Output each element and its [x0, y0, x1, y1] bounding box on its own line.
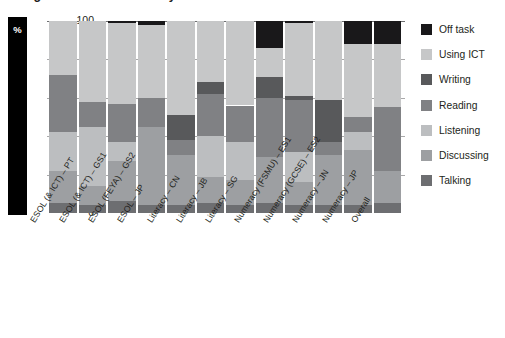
bar-segment[interactable]: [344, 117, 372, 132]
percent-axis-label: %: [9, 24, 26, 35]
bar-segment[interactable]: [167, 140, 195, 155]
bar-segment[interactable]: [285, 96, 313, 100]
bar-segment[interactable]: [256, 77, 284, 98]
bar-segment[interactable]: [108, 23, 136, 104]
bar-segment[interactable]: [374, 171, 402, 204]
legend-item[interactable]: Listening: [421, 118, 489, 143]
bar-segment[interactable]: [374, 44, 402, 107]
bar-segment[interactable]: [197, 136, 225, 176]
bar-segment[interactable]: [315, 100, 343, 142]
legend-item[interactable]: Using ICT: [421, 42, 489, 67]
legend-item[interactable]: Reading: [421, 93, 489, 118]
bar-segment[interactable]: [374, 203, 402, 213]
bar-segment[interactable]: [226, 106, 254, 142]
bar-segment[interactable]: [197, 82, 225, 94]
bar-column[interactable]: [374, 21, 402, 213]
legend-item[interactable]: Off task: [421, 17, 489, 42]
legend-swatch: [421, 150, 432, 161]
bar-segment[interactable]: [79, 21, 107, 102]
legend: Off taskUsing ICTWritingReadingListening…: [421, 17, 489, 193]
bar-segment[interactable]: [138, 98, 166, 127]
legend-label: Listening: [439, 125, 480, 136]
percent-axis-box: [8, 17, 27, 215]
legend-swatch: [421, 24, 432, 35]
bar-segment[interactable]: [285, 21, 313, 23]
bar-segment[interactable]: [108, 21, 136, 23]
bar-segment[interactable]: [226, 21, 254, 105]
bar-segment[interactable]: [138, 25, 166, 98]
bar-segment[interactable]: [49, 21, 77, 75]
bar-segment[interactable]: [49, 75, 77, 133]
bar-segment[interactable]: [315, 21, 343, 100]
legend-swatch: [421, 100, 432, 111]
bar-segment[interactable]: [138, 21, 166, 25]
bar-segment[interactable]: [197, 21, 225, 82]
legend-swatch: [421, 175, 432, 186]
bar-segment[interactable]: [256, 21, 284, 48]
legend-item[interactable]: Writing: [421, 67, 489, 92]
bar-segment[interactable]: [344, 132, 372, 149]
bar-segment[interactable]: [256, 48, 284, 77]
bar-segment[interactable]: [197, 94, 225, 136]
bar-segment[interactable]: [167, 115, 195, 140]
legend-label: Reading: [439, 100, 477, 111]
legend-item[interactable]: Discussing: [421, 143, 489, 168]
legend-label: Discussing: [439, 150, 489, 161]
bar-segment[interactable]: [167, 21, 195, 115]
bar-segment[interactable]: [374, 107, 402, 170]
legend-label: Talking: [439, 175, 471, 186]
legend-label: Using ICT: [439, 49, 485, 60]
bar-segment[interactable]: [79, 102, 107, 127]
bar-segment[interactable]: [344, 21, 372, 44]
chart-title: Figure 4: Learner activity: [22, 0, 176, 2]
bar-segment[interactable]: [108, 104, 136, 142]
legend-label: Writing: [439, 74, 471, 85]
legend-swatch: [421, 125, 432, 136]
legend-swatch: [421, 74, 432, 85]
legend-swatch: [421, 49, 432, 60]
legend-item[interactable]: Talking: [421, 168, 489, 193]
bar-segment[interactable]: [374, 21, 402, 44]
bar-segment[interactable]: [285, 23, 313, 96]
bar-segment[interactable]: [344, 44, 372, 117]
legend-label: Off task: [439, 24, 474, 35]
